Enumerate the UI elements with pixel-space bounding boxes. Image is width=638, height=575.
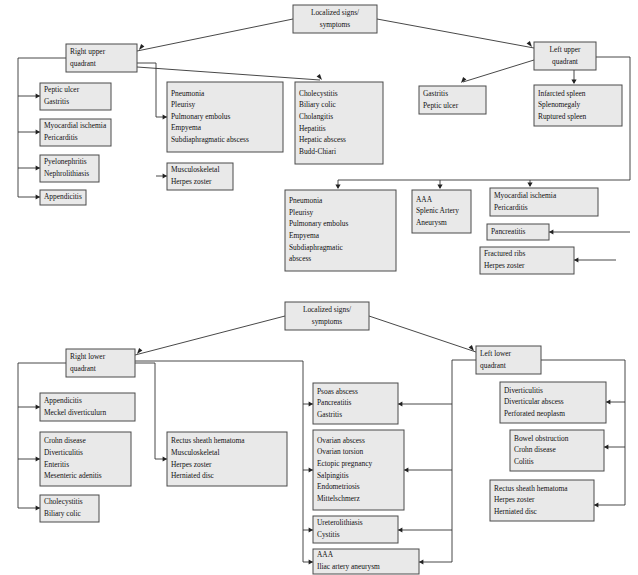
left-lower-quadrant[interactable]: Left lowerquadrant	[476, 346, 541, 374]
node-text-line: Cholangitis	[299, 112, 333, 121]
conn-luq-to-gastritis	[463, 60, 534, 82]
node-text-line: Herniated disc	[494, 507, 538, 516]
box-cholecystitis-biliary-lower[interactable]: CholecystitisBiliary colic	[40, 495, 99, 522]
node-text-line: abscess	[289, 254, 311, 263]
node-text-line: Endometriosis	[317, 482, 360, 491]
node-text-line: Appendicitis	[44, 192, 82, 201]
arrowhead-icon	[419, 559, 423, 564]
box-myocardial-ischemia-pericarditis[interactable]: Myocardial ischemiaPericarditis	[40, 119, 111, 146]
node-text-line: AAA	[317, 550, 334, 559]
node-text-line: Hepatic abscess	[299, 135, 346, 144]
node-text-line: Rectus sheath hematoma	[171, 436, 245, 445]
node-text-line: Psoas abscess	[317, 387, 358, 396]
box-peptic-ulcer-gastritis[interactable]: Peptic ulcerGastritis	[40, 83, 111, 110]
node-text-line: Pyelonephritis	[44, 157, 87, 166]
box-pyelonephritis-nephrolithiasis[interactable]: PyelonephritisNephrolithiasis	[40, 155, 99, 182]
arrowhead-icon	[527, 183, 532, 187]
node-text-line: Gastritis	[44, 97, 69, 106]
box-psoas-abscess[interactable]: Psoas abscessPancreatitisGastritis	[313, 383, 398, 424]
node-text-line: Diverticulitis	[44, 448, 83, 457]
node-text-line: Cholecystitis	[299, 89, 338, 98]
node-text-line: Pericarditis	[494, 203, 528, 212]
node-text-line: Diverticulitis	[504, 386, 543, 395]
node-text-line: Appendicitis	[44, 396, 82, 405]
node-text-line: Herpes zoster	[494, 495, 535, 504]
node-text-line: quadrant	[70, 59, 97, 68]
node-text-line: Right upper	[70, 47, 106, 56]
node-text-line: Subdiaphragmatic	[289, 243, 343, 252]
box-appendicitis-meckel[interactable]: AppendicitisMeckel diverticulurn	[40, 393, 135, 421]
box-gastritis-peptic-ulcer[interactable]: GastritisPeptic ulcer	[419, 86, 486, 114]
arrowhead-icon	[163, 114, 167, 119]
node-text-line: Budd-Chiari	[299, 147, 336, 156]
box-bowel-obstruction[interactable]: Bowel obstructionCrohn diseaseColitis	[510, 430, 604, 471]
node-text-line: Pneumonia	[289, 196, 323, 205]
conn-ruq-to-cholecystitis	[137, 67, 320, 80]
box-appendicitis-upper[interactable]: Appendicitis	[40, 190, 86, 205]
upper-root[interactable]: Localized signs/symptoms	[293, 5, 377, 33]
box-rectus-sheath-right[interactable]: Rectus sheath hematomaHerpes zosterHerni…	[490, 480, 594, 521]
node-text-line: Musculoskeletal	[171, 165, 219, 174]
node-text-line: Ruptured spleen	[538, 112, 587, 121]
node-layer: Localized signs/symptomsRight upperquadr…	[40, 5, 622, 574]
node-text-line: Peptic ulcer	[423, 101, 459, 110]
box-myocardial-ischemia-pericarditis-right[interactable]: Myocardial ischemiaPericarditis	[490, 188, 598, 216]
box-spleen-group[interactable]: Infarcted spleenSplenomegalyRuptured spl…	[534, 85, 622, 126]
box-crohn-group[interactable]: Crohn diseaseDiverticulitisEnteritisMese…	[40, 432, 131, 486]
flowchart-canvas: Localized signs/symptomsRight upperquadr…	[0, 0, 638, 575]
node-text-line: AAA	[416, 195, 433, 204]
node-text-line: Ectopic pregnancy	[317, 459, 373, 468]
node-text-line: Bowel obstruction	[514, 434, 569, 443]
node-text-line: Pulmonary embolus	[171, 112, 230, 121]
node-text-line: Infarcted spleen	[538, 89, 586, 98]
node-text-line: Enteritis	[44, 460, 69, 469]
node-text-line: Rectus sheath hematoma	[494, 484, 568, 493]
box-aaa-iliac[interactable]: AAAIliac artery aneurysm	[313, 549, 419, 574]
box-pneumonia-group-upper-left[interactable]: PneumoniaPleurisyPulmonary embolusEmpyem…	[167, 82, 283, 152]
box-ovarian-group[interactable]: Ovarian abscessOvarian torsionEctopic pr…	[313, 430, 404, 510]
box-pneumonia-group-upper-right[interactable]: PneumoniaPleurisyPulmonary embolusEmpyem…	[285, 190, 396, 271]
node-text-line: quadrant	[480, 361, 507, 370]
box-diverticulitis-group[interactable]: DiverticulitisDiverticular abscessPerfor…	[500, 382, 606, 423]
node-text-line: Splenic Artery	[416, 206, 459, 215]
box-ureterolithiasis-cystitis[interactable]: UreterolithiasisCystitis	[313, 516, 398, 543]
node-text-line: Peptic ulcer	[44, 85, 80, 94]
node-text-line: Iliac artery aneurysm	[317, 562, 380, 571]
box-rectus-sheath-left[interactable]: Rectus sheath hematomaMusculoskeletalHer…	[167, 432, 287, 486]
arrowhead-icon	[309, 527, 313, 532]
arrowhead-icon	[36, 194, 40, 199]
node-text-line: Empyema	[289, 231, 320, 240]
node-text-line: quadrant	[70, 364, 97, 373]
node-text-line: Herpes zoster	[171, 460, 212, 469]
arrowhead-icon	[398, 401, 402, 406]
left-upper-quadrant[interactable]: Left upperquadrant	[534, 42, 596, 70]
node-text-line: Nephrolithiasis	[44, 169, 89, 178]
conn-lower-root-to-llq	[369, 316, 476, 352]
box-musculoskeletal-herpes-zoster-upper[interactable]: MusculoskeletalHerpes zoster	[167, 163, 233, 190]
arrowhead-icon	[309, 401, 313, 406]
box-cholecystitis-group[interactable]: CholecystitisBiliary colicCholangitisHep…	[295, 82, 383, 164]
conn-rlq-to-mid-trunk	[135, 363, 167, 459]
node-text-line: Herniated disc	[171, 471, 215, 480]
node-text-line: quadrant	[552, 57, 579, 66]
node-text-line: Pulmonary embolus	[289, 219, 348, 228]
node-text-line: Crohn disease	[514, 445, 556, 454]
node-text-line: Herpes zoster	[484, 261, 525, 270]
node-text-line: Gastritis	[317, 410, 342, 419]
arrowhead-icon	[163, 173, 167, 178]
box-pancreatitis[interactable]: Pancreatitis	[487, 224, 549, 240]
node-text-line: Pericarditis	[44, 133, 78, 142]
box-fractured-ribs-herpes-zoster[interactable]: Fractured ribsHerpes zoster	[480, 247, 574, 274]
arrowhead-icon	[527, 41, 532, 47]
box-aaa-splenic-artery[interactable]: AAASplenic ArteryAneurysm	[412, 190, 471, 233]
arrowhead-icon	[36, 404, 40, 409]
lower-root[interactable]: Localized signs/symptoms	[285, 302, 369, 330]
node-text-line: Myocardial ischemia	[44, 121, 107, 130]
node-text-line: Fractured ribs	[484, 249, 525, 258]
arrowhead-icon	[571, 80, 576, 84]
node-text-line: Meckel diverticulurn	[44, 408, 106, 417]
right-upper-quadrant[interactable]: Right upperquadrant	[66, 44, 137, 72]
right-lower-quadrant[interactable]: Right lowerquadrant	[66, 349, 135, 377]
node-text-line: Right lower	[70, 352, 106, 361]
node-text-line: Mesenteric adenitis	[44, 471, 102, 480]
